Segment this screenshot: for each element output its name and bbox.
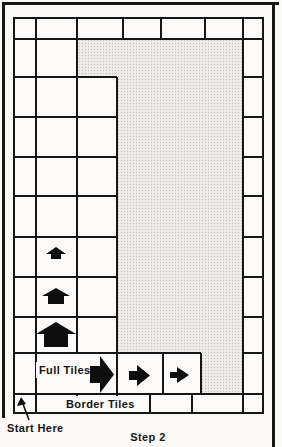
grid-line xyxy=(243,156,264,158)
grid-line xyxy=(242,17,244,414)
tile-layout-diagram: Full Tiles Border Tiles Start Here Step … xyxy=(0,0,282,447)
grid-line xyxy=(35,17,37,414)
grid-line xyxy=(243,316,264,318)
grid-line xyxy=(149,394,151,414)
grid-line xyxy=(13,316,117,318)
grid-line xyxy=(243,195,264,197)
grid-line xyxy=(13,76,117,78)
grid-line xyxy=(13,393,264,395)
grid-line xyxy=(162,353,164,394)
grid-line xyxy=(243,352,264,354)
grid-line xyxy=(76,17,78,353)
grid-line xyxy=(160,17,162,39)
outer-frame-left xyxy=(2,2,5,418)
grid-line xyxy=(204,17,206,39)
outer-frame-top xyxy=(2,2,279,5)
grid-line xyxy=(200,353,202,394)
grid-line xyxy=(191,394,193,414)
grid-line xyxy=(116,77,118,414)
grid-line xyxy=(243,116,264,118)
step-caption: Step 2 xyxy=(14,429,282,445)
grid-line xyxy=(13,236,117,238)
full-tiles-label: Full Tiles xyxy=(36,362,93,378)
grid-line xyxy=(243,276,264,278)
grid-line xyxy=(243,236,264,238)
grid-line xyxy=(122,17,124,39)
grid-line xyxy=(13,352,201,354)
grid-line xyxy=(13,38,264,40)
outer-frame-right xyxy=(272,2,275,447)
grid-line xyxy=(13,116,117,118)
grid-line xyxy=(13,276,117,278)
grid-line xyxy=(13,156,117,158)
grid-line xyxy=(243,76,264,78)
border-tiles-label: Border Tiles xyxy=(63,396,138,412)
grid-line xyxy=(13,195,117,197)
